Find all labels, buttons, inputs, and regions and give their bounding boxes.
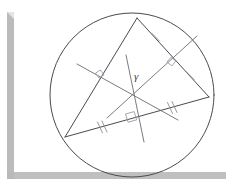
right-angle-mark-bottom bbox=[126, 112, 137, 123]
geometry-diagram: γ bbox=[0, 0, 226, 186]
perpendicular-bisectors bbox=[77, 36, 197, 142]
frame-bars bbox=[7, 12, 226, 179]
left-border-highlight bbox=[7, 12, 14, 172]
tick-top-right-upper-half bbox=[152, 33, 160, 41]
bottom-border-highlight bbox=[14, 172, 226, 179]
tick-top-right-lower-half bbox=[186, 72, 194, 80]
circumcenter-label: γ bbox=[134, 70, 139, 82]
triangle-side-bottom bbox=[65, 97, 209, 137]
geometry-figure-panel: γ bbox=[0, 0, 226, 186]
